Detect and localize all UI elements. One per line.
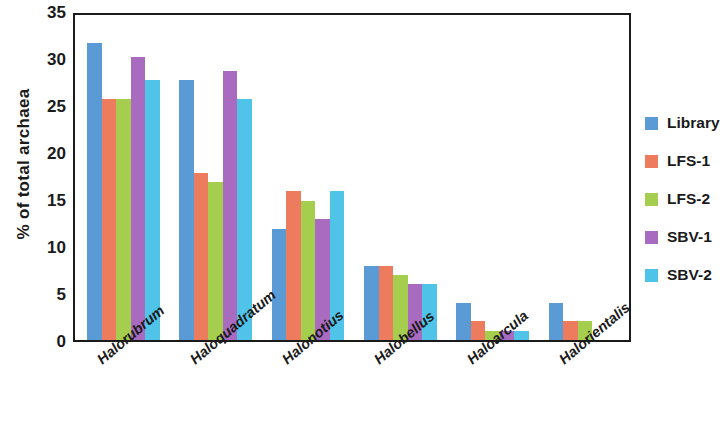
bar[interactable] xyxy=(145,80,160,340)
bar-chart: % of total archaea 05101520253035 Haloru… xyxy=(0,0,727,447)
y-tick-label: 25 xyxy=(32,98,66,115)
legend-item[interactable]: SBV-2 xyxy=(645,256,727,294)
legend-label: SBV-2 xyxy=(667,266,712,284)
legend-swatch-icon xyxy=(645,193,658,206)
bar-group xyxy=(456,15,529,340)
bar-group xyxy=(364,15,437,340)
legend-label: SBV-1 xyxy=(667,228,712,246)
y-tick-label: 5 xyxy=(32,286,66,303)
bar[interactable] xyxy=(286,191,301,340)
bar-group xyxy=(179,15,252,340)
bar[interactable] xyxy=(194,173,209,340)
bar[interactable] xyxy=(301,201,316,340)
legend-swatch-icon xyxy=(645,155,658,168)
bar[interactable] xyxy=(272,229,287,340)
bar[interactable] xyxy=(179,80,194,340)
legend-swatch-icon xyxy=(645,117,658,130)
bars-layer xyxy=(75,15,629,340)
plot-area xyxy=(73,13,631,342)
y-tick-label: 15 xyxy=(32,192,66,209)
y-tick-label: 30 xyxy=(32,51,66,68)
bar[interactable] xyxy=(116,99,131,340)
bar[interactable] xyxy=(208,182,223,340)
y-tick-label: 10 xyxy=(32,239,66,256)
chart-legend: LibraryLFS-1LFS-2SBV-1SBV-2 xyxy=(645,104,727,294)
bar[interactable] xyxy=(364,266,379,340)
legend-swatch-icon xyxy=(645,269,658,282)
bar[interactable] xyxy=(102,99,117,340)
bar-group xyxy=(272,15,345,340)
bar[interactable] xyxy=(379,266,394,340)
bar-group xyxy=(87,15,160,340)
bar-group xyxy=(549,15,622,340)
bar[interactable] xyxy=(456,303,471,340)
bar[interactable] xyxy=(87,43,102,340)
legend-item[interactable]: Library xyxy=(645,104,727,142)
legend-item[interactable]: LFS-1 xyxy=(645,142,727,180)
legend-label: Library xyxy=(667,114,720,132)
legend-label: LFS-2 xyxy=(667,190,710,208)
legend-item[interactable]: LFS-2 xyxy=(645,180,727,218)
legend-label: LFS-1 xyxy=(667,152,710,170)
y-tick-label: 0 xyxy=(32,333,66,350)
bar[interactable] xyxy=(223,71,238,340)
bar[interactable] xyxy=(131,57,146,340)
bar[interactable] xyxy=(514,331,529,340)
bar[interactable] xyxy=(549,303,564,340)
y-tick-label: 20 xyxy=(32,145,66,162)
y-axis-tick-labels: 05101520253035 xyxy=(28,0,66,447)
legend-item[interactable]: SBV-1 xyxy=(645,218,727,256)
y-tick-label: 35 xyxy=(32,4,66,21)
legend-swatch-icon xyxy=(645,231,658,244)
